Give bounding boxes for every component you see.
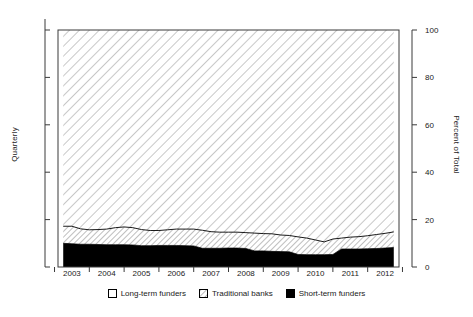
legend-item-traditional-banks[interactable]: Traditional banks	[199, 289, 273, 298]
x-axis-tick-label: 2009	[272, 269, 290, 278]
chart-legend: Long-term funders Traditional banks Shor…	[0, 289, 473, 298]
legend-label: Long-term funders	[121, 289, 186, 298]
x-axis-tick-label: 2005	[133, 269, 151, 278]
legend-swatch-white-box-icon	[108, 289, 117, 298]
chart-figure: Quarterly Percent of Total	[0, 0, 473, 317]
legend-swatch-black-box-icon	[286, 289, 295, 298]
x-axis-tick-label: 2011	[342, 269, 359, 278]
x-axis-tick-label: 2007	[202, 269, 220, 278]
y-axis-tick-label: 40	[425, 168, 434, 177]
area-long-term-funders	[63, 30, 394, 242]
right-axis	[412, 30, 417, 267]
x-axis-tick-label: 2008	[237, 269, 255, 278]
x-axis-tick-label: 2006	[167, 269, 185, 278]
legend-label: Short-term funders	[299, 289, 366, 298]
y-axis-tick-label: 20	[425, 215, 434, 224]
legend-label: Traditional banks	[212, 289, 273, 298]
legend-item-short-term-funders[interactable]: Short-term funders	[286, 289, 366, 298]
x-axis-tick-label: 2003	[63, 269, 81, 278]
legend-item-long-term-funders[interactable]: Long-term funders	[108, 289, 186, 298]
y-axis-tick-label: 80	[425, 73, 434, 82]
y-axis-tick-label: 100	[425, 26, 438, 35]
legend-swatch-hatched-box-icon	[199, 289, 208, 298]
y-axis-tick-label: 0	[425, 263, 429, 272]
y-axis-tick-label: 60	[425, 120, 434, 129]
left-axis	[45, 19, 50, 267]
x-axis-tick-label: 2012	[376, 269, 394, 278]
x-axis-tick-label: 2010	[307, 269, 325, 278]
x-axis-tick-label: 2004	[98, 269, 116, 278]
